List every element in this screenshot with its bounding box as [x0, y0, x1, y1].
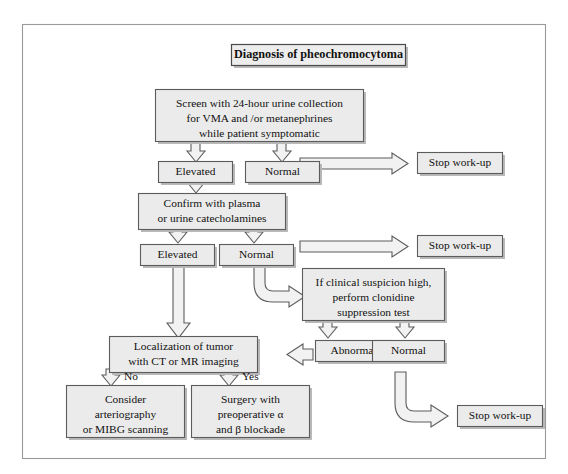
clonidine-line-3: suppression test — [337, 306, 410, 318]
surgery-line-2: preoperative α — [218, 408, 284, 420]
node-normal-2: Normal — [220, 245, 297, 269]
edge-label-yes: Yes — [242, 370, 259, 382]
node-confirm: Confirm with plasma or urine catecholami… — [139, 194, 289, 233]
screen-line-3: while patient symptomatic — [199, 127, 320, 139]
stop-2-text: Stop work-up — [429, 239, 492, 251]
normal-2-text: Normal — [239, 248, 274, 260]
consider-line-2: arteriography — [95, 408, 157, 420]
flowchart-figure: Diagnosis of pheochromocytoma Screen wit… — [0, 0, 568, 474]
node-stop-2: Stop work-up — [418, 236, 506, 260]
elevated-2-text: Elevated — [158, 248, 198, 260]
node-elevated-2: Elevated — [141, 245, 218, 269]
clonidine-line-2: perform clonidine — [333, 291, 415, 303]
stop-1-text: Stop work-up — [429, 156, 492, 168]
elevated-1-text: Elevated — [176, 165, 216, 177]
title-text: Diagnosis of pheochromocytoma — [234, 47, 403, 61]
node-surgery: Surgery with preoperative α and β blocka… — [192, 386, 313, 441]
node-normal-3: Normal — [373, 341, 448, 365]
surgery-line-1: Surgery with — [221, 393, 280, 405]
node-screen: Screen with 24-hour urine collection for… — [156, 90, 367, 145]
stop-3-text: Stop work-up — [469, 409, 532, 421]
node-clonidine: If clinical suspicion high, perform clon… — [303, 269, 448, 324]
node-stop-1: Stop work-up — [418, 153, 506, 177]
edge-label-no: No — [124, 370, 138, 382]
localization-line-1: Localization of tumor — [134, 340, 234, 352]
node-consider: Consider arteriography or MIBG scanning — [67, 386, 188, 441]
node-elevated-1: Elevated — [159, 162, 236, 186]
screen-line-1: Screen with 24-hour urine collection — [176, 97, 343, 109]
confirm-line-2: or urine catecholamines — [158, 212, 267, 224]
surgery-line-3: and β blockade — [216, 423, 285, 435]
normal-3-text: Normal — [391, 344, 426, 356]
consider-line-3: or MIBG scanning — [83, 423, 169, 435]
flowchart-canvas: Diagnosis of pheochromocytoma Screen wit… — [0, 0, 568, 474]
node-title: Diagnosis of pheochromocytoma — [232, 45, 409, 69]
consider-line-1: Consider — [105, 393, 146, 405]
localization-line-2: with CT or MR imaging — [128, 355, 239, 367]
screen-line-2: for VMA and /or metanephrines — [187, 112, 334, 124]
node-stop-3: Stop work-up — [458, 406, 546, 430]
node-normal-1: Normal — [246, 162, 323, 186]
abnormal-text: Abnormal — [330, 344, 376, 356]
confirm-line-1: Confirm with plasma — [164, 197, 261, 209]
normal-1-text: Normal — [265, 165, 300, 177]
clonidine-line-1: If clinical suspicion high, — [316, 276, 432, 288]
